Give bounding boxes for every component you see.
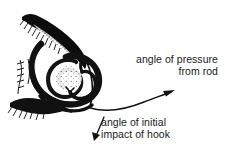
figure-canvas: angle of pressure from rod angle of init… [0,0,225,160]
label-angle-of-impact: angle of initial impact of hook [101,117,211,140]
label-pressure-line2: from rod [118,66,218,78]
label-impact-line1: angle of initial [101,117,211,129]
label-angle-of-pressure: angle of pressure from rod [118,54,218,77]
label-pressure-line1: angle of pressure [118,54,218,66]
label-impact-line2: impact of hook [101,129,211,141]
